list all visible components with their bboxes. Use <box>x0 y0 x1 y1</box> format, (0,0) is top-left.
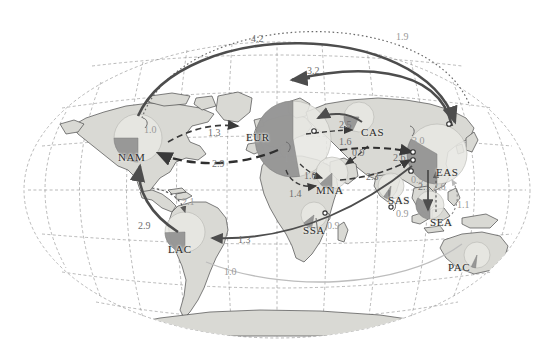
land-philippines <box>448 188 460 206</box>
region-pie-ssa <box>301 202 327 228</box>
land-newguinea <box>462 214 498 228</box>
origin-node-cas-b <box>411 158 416 163</box>
world-map-svg <box>0 0 549 360</box>
origin-node-eas <box>447 122 452 127</box>
region-pie-cas <box>344 102 374 132</box>
origin-node-sea <box>409 169 414 174</box>
pie-wedge-eur <box>255 101 300 177</box>
land-madagascar <box>338 222 348 242</box>
region-pie-mna <box>316 157 348 189</box>
region-pie-eas <box>407 124 467 184</box>
land-antarctica <box>120 310 440 336</box>
region-pie-sea <box>416 191 444 219</box>
origin-node-cas-a <box>411 150 416 155</box>
land-java <box>424 226 444 233</box>
origin-node-eur <box>312 129 317 134</box>
region-pie-nam <box>114 114 162 162</box>
flow-arrow-1-0-pac-lac <box>206 244 462 282</box>
land-newzealand <box>506 264 518 282</box>
region-pie-pac <box>464 242 490 268</box>
figure-canvas: NAMLACEURMNACASSSASASEASSEAPAC 4.21.93.2… <box>0 0 549 360</box>
land-newzealand-s <box>500 280 510 292</box>
land-greenland <box>216 92 252 122</box>
origin-node-ssa <box>323 211 327 215</box>
origin-node-sas <box>389 205 393 209</box>
pie-wedge-lac <box>165 232 185 252</box>
region-pie-lac <box>165 212 205 252</box>
region-pie-sas <box>378 173 404 199</box>
